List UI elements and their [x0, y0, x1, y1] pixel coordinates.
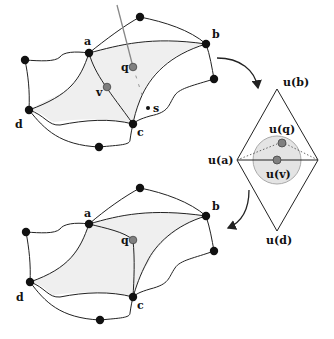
diagram-canvas: a b c d q v s u(b) u(q) u(a) u(v) u(d): [0, 0, 334, 339]
b-node-c: [129, 293, 137, 301]
b-label-d: d: [16, 291, 24, 304]
b-edge-left-d: [26, 232, 30, 282]
top-mesh: a b c d q v s: [15, 5, 220, 151]
b-edge-left-a: [26, 223, 89, 233]
b-edge-b-right: [206, 216, 214, 251]
node-uq: [278, 139, 286, 147]
node-a: [85, 49, 93, 57]
node-b: [202, 40, 210, 48]
node-top: [136, 13, 144, 21]
arrow-to-domain: [217, 58, 258, 88]
b-node-left: [22, 228, 30, 236]
edge-left-a: [25, 52, 89, 61]
b-label-q: q: [121, 234, 129, 247]
label-c: c: [137, 126, 144, 139]
top-shaded-face: [29, 42, 206, 124]
b-edge-bottom-c: [100, 297, 133, 320]
node-left: [21, 56, 29, 64]
b-node-a: [85, 220, 93, 228]
label-v: v: [95, 86, 103, 99]
b-label-c: c: [137, 299, 144, 312]
b-node-top: [136, 184, 144, 192]
b-node-d: [26, 278, 34, 286]
b-label-b: b: [212, 200, 220, 213]
bottom-shaded-face: [30, 212, 206, 297]
b-node-bottom: [96, 316, 104, 324]
label-q: q: [121, 61, 129, 74]
edge-left-d: [25, 60, 29, 110]
bottom-mesh: a b c d q: [16, 184, 220, 324]
b-node-q: [129, 236, 137, 244]
label-b: b: [212, 28, 220, 41]
label-uv: u(v): [266, 168, 291, 181]
edge-b-right: [206, 44, 214, 79]
arrow-to-result: [228, 190, 249, 228]
label-ub: u(b): [283, 76, 309, 89]
node-right: [210, 75, 218, 83]
label-ua: u(a): [208, 154, 234, 167]
node-d: [25, 106, 33, 114]
label-a: a: [84, 35, 91, 48]
label-d: d: [15, 118, 23, 131]
label-uq: u(q): [269, 123, 295, 136]
node-bottom: [95, 143, 103, 151]
param-domain: u(b) u(q) u(a) u(v) u(d): [208, 76, 318, 247]
b-node-right: [210, 247, 218, 255]
b-edge-top-b: [140, 188, 206, 216]
b-label-a: a: [84, 207, 91, 220]
node-s: [146, 106, 150, 110]
label-ud: u(d): [266, 234, 292, 247]
edge-top-b: [140, 17, 206, 44]
label-s: s: [153, 102, 159, 115]
node-q: [129, 63, 137, 71]
b-node-b: [202, 212, 210, 220]
edge-bottom-c: [99, 124, 133, 147]
node-v: [103, 83, 111, 91]
node-uv: [273, 156, 281, 164]
node-c: [129, 120, 137, 128]
